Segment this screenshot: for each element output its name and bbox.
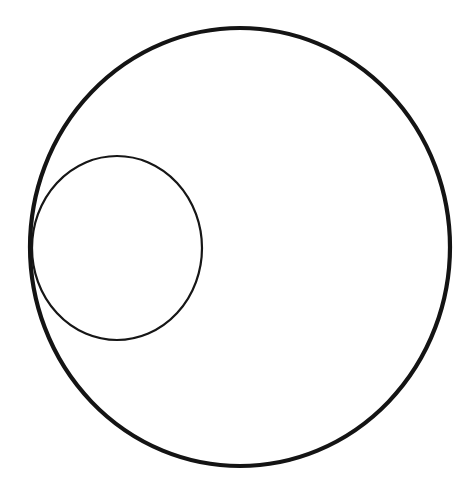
figure-canvas bbox=[0, 0, 473, 502]
figure-background bbox=[0, 0, 473, 502]
circles-figure bbox=[0, 0, 473, 502]
